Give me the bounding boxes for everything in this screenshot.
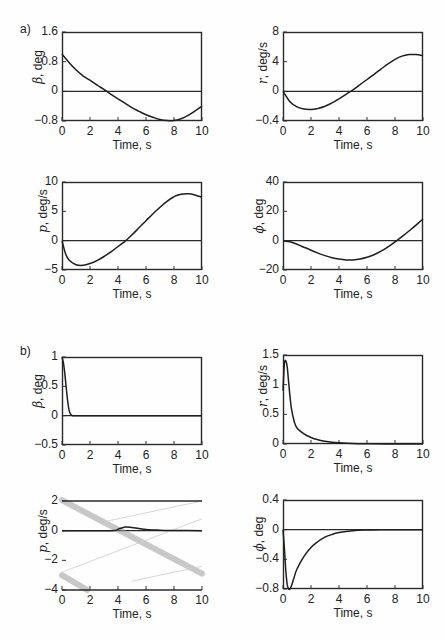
plot-area: [62, 501, 202, 590]
x-tick-label: 2: [308, 124, 315, 138]
chart-a-phi: 40200−200246810Time, sϕ, deg: [283, 182, 423, 270]
y-tick-label: −0.4: [255, 551, 279, 565]
y-axis-label: ϕ, deg: [252, 198, 266, 233]
y-axis-label: p, deg/s: [36, 509, 50, 553]
x-tick-label: 10: [195, 448, 208, 462]
y-tick-label: 0: [51, 408, 58, 422]
data-series-line: [283, 219, 423, 260]
x-tick-label: 2: [308, 273, 315, 287]
plot-area: [62, 32, 202, 121]
x-tick-label: 6: [364, 124, 371, 138]
y-axis-label: r, deg/s: [256, 42, 270, 84]
y-tick-label: 40: [266, 174, 279, 188]
y-tick-label: −2: [44, 552, 58, 566]
plot-area: [283, 32, 423, 121]
x-tick-label: 0: [59, 124, 66, 138]
y-tick-label: −0.8: [34, 113, 58, 127]
x-tick-label: 6: [364, 447, 371, 461]
panel-label-b: b): [20, 344, 31, 358]
x-axis-label: Time, s: [113, 287, 152, 301]
x-tick-label: 8: [171, 124, 178, 138]
x-axis-label: Time, s: [113, 607, 152, 621]
x-tick-label: 10: [195, 124, 208, 138]
y-axis-label: ϕ, deg: [252, 517, 266, 552]
x-tick-label: 0: [280, 124, 287, 138]
plot-area: [283, 182, 423, 270]
plot-area: [283, 355, 423, 444]
y-tick-label: 0: [272, 522, 279, 536]
panel-label-a: a): [20, 22, 31, 36]
x-axis-label: Time, s: [113, 462, 152, 476]
x-axis-label: Time, s: [113, 138, 152, 152]
y-tick-label: 0: [272, 436, 279, 450]
y-axis-label: p, deg/s: [36, 189, 50, 233]
data-series-line: [283, 360, 423, 444]
x-tick-label: 10: [416, 273, 429, 287]
x-axis-label: Time, s: [334, 606, 373, 620]
y-tick-label: −4: [44, 582, 58, 596]
y-tick-label: 0: [51, 83, 58, 97]
y-axis-label: β, deg: [31, 50, 45, 84]
x-tick-label: 8: [171, 593, 178, 607]
x-tick-label: 0: [280, 273, 287, 287]
chart-b-p: 20−2−40246810Time, sp, deg/s: [62, 501, 202, 590]
plot-area: [62, 357, 202, 445]
x-tick-label: 0: [59, 273, 66, 287]
chart-a-beta: 1.60.80−0.80246810Time, sβ, deg: [62, 32, 202, 121]
x-tick-label: 2: [308, 447, 315, 461]
x-tick-label: 4: [115, 273, 122, 287]
plot-area: [283, 500, 423, 589]
x-tick-label: 4: [336, 124, 343, 138]
plot-area: [62, 182, 202, 270]
plot-frame: [284, 183, 423, 270]
plot-frame: [284, 356, 423, 444]
x-tick-label: 0: [59, 593, 66, 607]
x-tick-label: 4: [336, 447, 343, 461]
plot-frame: [63, 358, 202, 445]
plot-frame: [63, 183, 202, 270]
y-tick-label: 0.5: [262, 406, 279, 420]
y-tick-label: 0: [51, 523, 58, 537]
chart-a-p: 1050−50246810Time, sp, deg/s: [62, 182, 202, 270]
y-tick-label: −0.8: [255, 581, 279, 595]
x-tick-label: 10: [195, 273, 208, 287]
y-axis-label: β, deg: [31, 374, 45, 408]
x-tick-label: 2: [87, 448, 94, 462]
scan-artifact-band: [62, 575, 87, 590]
x-tick-label: 6: [364, 273, 371, 287]
data-series-line: [283, 530, 423, 590]
x-tick-label: 4: [336, 273, 343, 287]
x-tick-label: 10: [416, 447, 429, 461]
x-tick-label: 8: [171, 448, 178, 462]
chart-b-phi: 0.40−0.4−0.80246810Time, sϕ, deg: [283, 500, 423, 589]
x-tick-label: 4: [336, 592, 343, 606]
x-tick-label: 2: [87, 593, 94, 607]
y-tick-label: 1.5: [262, 347, 279, 361]
chart-a-r: 840−0.40246810Time, sr, deg/s: [283, 32, 423, 121]
y-tick-label: 1.6: [41, 24, 58, 38]
y-tick-label: −0.5: [34, 437, 58, 451]
x-axis-label: Time, s: [334, 461, 373, 475]
y-tick-label: −20: [259, 262, 279, 276]
x-tick-label: 10: [416, 592, 429, 606]
data-series-line: [62, 194, 202, 266]
x-tick-label: 10: [195, 593, 208, 607]
y-tick-label: 0.4: [262, 492, 279, 506]
x-tick-label: 6: [143, 448, 150, 462]
x-tick-label: 2: [308, 592, 315, 606]
x-tick-label: 6: [143, 593, 150, 607]
x-tick-label: 8: [171, 273, 178, 287]
y-tick-label: 1: [272, 377, 279, 391]
x-tick-label: 0: [280, 447, 287, 461]
y-tick-label: 0: [272, 83, 279, 97]
y-tick-label: 20: [266, 203, 279, 217]
y-tick-label: 8: [272, 24, 279, 38]
y-tick-label: 0: [51, 233, 58, 247]
y-tick-label: −0.4: [255, 113, 279, 127]
x-tick-label: 4: [115, 448, 122, 462]
x-tick-label: 4: [115, 124, 122, 138]
y-tick-label: 0: [272, 233, 279, 247]
scan-artifact-band: [62, 500, 202, 573]
data-series-line: [62, 357, 202, 416]
plot-frame: [284, 501, 423, 589]
